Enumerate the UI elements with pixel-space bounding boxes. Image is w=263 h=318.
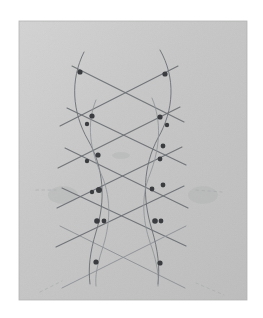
n-top-left (77, 69, 82, 74)
paper-sheet (19, 21, 247, 300)
n-bot-right (157, 260, 162, 265)
n-l3-a (95, 152, 100, 157)
n-bot-left (93, 259, 98, 264)
n-l4-b (90, 190, 94, 194)
n-l2-b (85, 122, 89, 126)
n-r5-a (152, 218, 158, 224)
m-right-smudge (188, 186, 218, 204)
n-r3-b (158, 157, 163, 162)
m-center-tick (112, 152, 130, 159)
n-l5-a (94, 218, 100, 224)
n-l5-b (102, 219, 107, 224)
sketch-photo (0, 0, 263, 318)
n-r2-a (157, 114, 162, 119)
paper-canvas (0, 0, 263, 318)
n-r4-b (161, 183, 166, 188)
n-r4-a (150, 187, 155, 192)
n-l3-b (85, 159, 89, 163)
n-r3-a (161, 144, 166, 149)
n-l4-a (96, 187, 102, 193)
n-r5-b (159, 219, 164, 224)
n-top-right (162, 71, 167, 76)
n-l2-a (89, 113, 94, 118)
n-r2-b (165, 123, 169, 127)
